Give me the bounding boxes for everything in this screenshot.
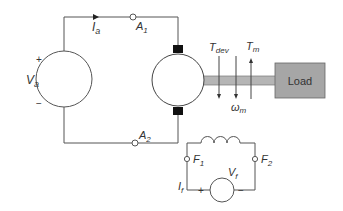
- terminal-f1: [184, 156, 189, 161]
- terminal-a2: [132, 140, 138, 146]
- if-label: If: [178, 180, 184, 195]
- vf-label: Vf: [228, 166, 238, 181]
- brush-bottom: [173, 107, 183, 115]
- a1-label: A1: [135, 20, 148, 35]
- load-label: Load: [288, 75, 312, 87]
- field-voltage-source: [210, 178, 234, 202]
- ia-label: Ia: [92, 20, 100, 36]
- vf-minus: −: [238, 185, 244, 196]
- f1-label: F1: [193, 153, 204, 168]
- tdev-label: Tdev: [209, 41, 230, 55]
- arrow-up-icon: [249, 58, 253, 63]
- arrow-down-icon: [217, 94, 221, 99]
- arrow-down-icon: [234, 94, 238, 99]
- motor-armature: [152, 54, 204, 106]
- brush-top: [173, 45, 183, 53]
- f2-label: F2: [261, 153, 273, 168]
- armature-voltage-source: [36, 51, 92, 107]
- a2-label: A2: [138, 129, 151, 144]
- field-winding-inductor: [201, 137, 240, 144]
- tm-label: Tm: [246, 40, 260, 54]
- field-wire-top-right: [240, 143, 255, 156]
- vf-plus: +: [198, 185, 204, 196]
- omega-label: ωm: [231, 101, 247, 115]
- wire-bottom-left: [64, 107, 132, 143]
- motor-shaft: [200, 76, 276, 85]
- dc-motor-diagram: Va + − Ia A1 A2 Tdev Tm ωm Load F1 F2 Vf…: [0, 0, 343, 211]
- va-plus: +: [36, 54, 42, 65]
- terminal-f2: [252, 156, 257, 161]
- va-minus: −: [36, 98, 42, 109]
